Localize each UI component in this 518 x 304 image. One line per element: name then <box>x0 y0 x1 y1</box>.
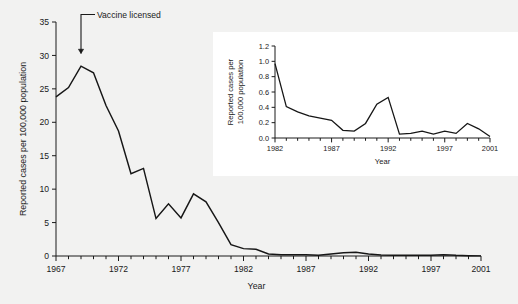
main-x-tick-label: 1967 <box>46 264 65 274</box>
inset-y-tick-label: 1.2 <box>259 42 269 51</box>
inset-y-tick-label: 0.0 <box>259 134 269 143</box>
inset-y-tick-label: 0.2 <box>259 118 269 127</box>
inset-x-tick-label: 1992 <box>380 144 396 153</box>
main-x-tick-label: 1987 <box>296 264 315 274</box>
inset-x-tick-label: 1987 <box>323 144 339 153</box>
figure-container: 0510152025303519671972197719821987199219… <box>0 0 518 304</box>
main-y-tick-label: 35 <box>39 17 49 27</box>
main-y-tick-label: 0 <box>44 251 49 261</box>
main-y-tick-label: 25 <box>39 84 49 94</box>
vaccine-licensed-arrowhead <box>78 49 83 53</box>
main-y-tick-label: 20 <box>39 117 49 127</box>
inset-data-line <box>275 64 490 137</box>
inset-x-tick-label: 2001 <box>482 144 498 153</box>
main-x-tick-label: 1992 <box>359 264 378 274</box>
inset-y-tick-label: 0.6 <box>259 88 269 97</box>
inset-x-axis-title: Year <box>375 157 391 166</box>
main-y-tick-label: 30 <box>39 51 49 61</box>
main-x-tick-label: 1977 <box>171 264 190 274</box>
inset-y-tick-label: 1.0 <box>259 57 269 66</box>
inset-y-axis-title-line2: 100,000 population <box>236 60 245 125</box>
main-x-tick-label: 1972 <box>109 264 128 274</box>
main-x-tick-label: 1997 <box>421 264 440 274</box>
main-y-axis-title: Reported cases per 100,000 population <box>18 62 28 216</box>
inset-y-tick-label: 0.4 <box>259 103 269 112</box>
inset-chart-panel: 0.00.20.40.60.81.01.21982198719921997200… <box>213 32 518 176</box>
inset-x-tick-label: 1997 <box>437 144 453 153</box>
vaccine-licensed-label: Vaccine licensed <box>97 10 161 20</box>
main-x-tick-label: 1982 <box>234 264 253 274</box>
inset-y-tick-label: 0.8 <box>259 72 269 81</box>
inset-x-tick-label: 1982 <box>267 144 283 153</box>
vaccine-licensed-connector <box>81 15 95 54</box>
main-x-tick-label: 2001 <box>471 264 490 274</box>
main-x-axis-title: Year <box>248 281 266 291</box>
main-y-tick-label: 10 <box>39 184 49 194</box>
inset-chart: 0.00.20.40.60.81.01.21982198719921997200… <box>213 32 518 176</box>
main-y-tick-label: 5 <box>44 218 49 228</box>
main-y-tick-label: 15 <box>39 151 49 161</box>
inset-y-axis-title-line1: Reported cases per <box>226 58 235 125</box>
